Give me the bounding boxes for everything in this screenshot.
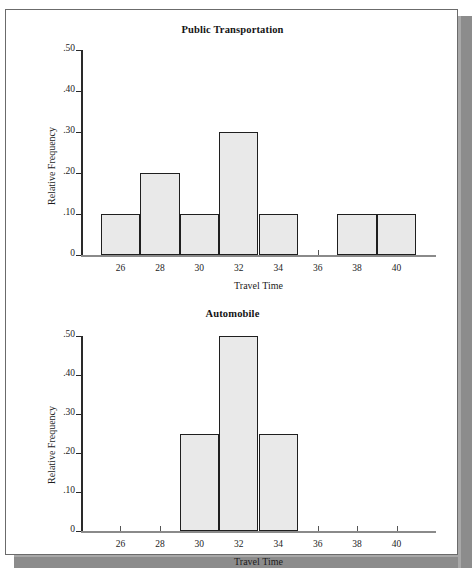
x-tick-label: 36 — [313, 539, 323, 549]
chart-automobile: Automobile Travel Time 0.10.20.30.40.502… — [6, 286, 459, 556]
y-tick-mark — [76, 214, 81, 215]
histogram-bar — [219, 132, 258, 255]
page-root: Public Transportation Travel Time 0.10.2… — [0, 0, 476, 573]
x-axis-label: Travel Time — [81, 556, 436, 567]
x-tick-mark — [397, 526, 398, 531]
x-tick-label: 28 — [155, 263, 165, 273]
y-axis-line — [81, 50, 83, 255]
histogram-bar — [180, 434, 219, 532]
y-tick-mark — [76, 414, 81, 415]
y-tick-label: .30 — [63, 125, 75, 135]
x-tick-label: 38 — [352, 539, 362, 549]
histogram-bar — [377, 214, 416, 255]
y-tick-label: .10 — [63, 485, 75, 495]
plot-area: Travel Time 0.10.20.30.40.50262830323436… — [81, 336, 436, 531]
y-axis-label: Relative Frequency — [46, 406, 57, 484]
y-tick-label: .20 — [63, 446, 75, 456]
y-tick-label: .40 — [63, 368, 75, 378]
y-tick-label: 0 — [70, 248, 75, 258]
histogram-bar — [180, 214, 219, 255]
plot-area: Travel Time 0.10.20.30.40.50262830323436… — [81, 50, 436, 255]
x-tick-label: 26 — [116, 539, 126, 549]
y-tick-mark — [76, 375, 81, 376]
x-tick-label: 28 — [155, 539, 165, 549]
histogram-bar — [219, 336, 258, 531]
y-axis-label: Relative Frequency — [46, 127, 57, 205]
x-tick-mark — [318, 526, 319, 531]
x-tick-label: 34 — [273, 263, 283, 273]
y-tick-label: .20 — [63, 166, 75, 176]
x-tick-mark — [318, 250, 319, 255]
y-tick-mark — [76, 453, 81, 454]
y-tick-label: .10 — [63, 207, 75, 217]
y-tick-label: .30 — [63, 407, 75, 417]
x-tick-label: 32 — [234, 263, 244, 273]
x-tick-label: 38 — [352, 263, 362, 273]
page-card: Public Transportation Travel Time 0.10.2… — [5, 9, 458, 555]
y-tick-mark — [76, 531, 81, 532]
y-tick-mark — [76, 492, 81, 493]
x-tick-label: 40 — [392, 263, 402, 273]
y-tick-mark — [76, 50, 81, 51]
chart-title: Automobile — [6, 308, 459, 319]
histogram-bar — [259, 214, 298, 255]
x-axis-line — [81, 255, 436, 257]
y-axis-line — [81, 336, 83, 531]
x-tick-mark — [120, 526, 121, 531]
y-tick-label: .40 — [63, 84, 75, 94]
y-tick-label: .50 — [63, 43, 75, 53]
x-tick-label: 30 — [195, 263, 205, 273]
x-tick-label: 30 — [195, 539, 205, 549]
histogram-bar — [259, 434, 298, 532]
y-tick-mark — [76, 336, 81, 337]
y-tick-mark — [76, 132, 81, 133]
x-tick-label: 32 — [234, 539, 244, 549]
chart-public-transportation: Public Transportation Travel Time 0.10.2… — [6, 10, 459, 290]
y-tick-label: 0 — [70, 524, 75, 534]
y-tick-mark — [76, 173, 81, 174]
y-tick-label: .50 — [63, 329, 75, 339]
y-tick-mark — [76, 91, 81, 92]
histogram-bar — [140, 173, 179, 255]
x-tick-mark — [357, 526, 358, 531]
x-tick-mark — [160, 526, 161, 531]
x-tick-label: 26 — [116, 263, 126, 273]
x-tick-label: 40 — [392, 539, 402, 549]
x-tick-label: 34 — [273, 539, 283, 549]
histogram-bar — [101, 214, 140, 255]
histogram-bar — [337, 214, 376, 255]
x-tick-label: 36 — [313, 263, 323, 273]
y-tick-mark — [76, 255, 81, 256]
chart-title: Public Transportation — [6, 24, 459, 35]
x-axis-line — [81, 531, 436, 533]
